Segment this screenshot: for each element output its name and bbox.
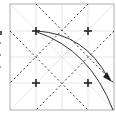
grid-lines (10, 4, 114, 110)
arrowhead-icon (103, 72, 112, 82)
crease-pattern-diagram (0, 0, 116, 116)
fold-arrow-outer (37, 31, 108, 78)
